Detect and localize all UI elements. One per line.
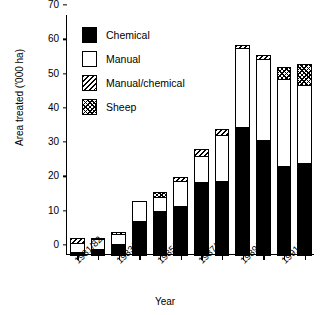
y-tick-mark xyxy=(63,107,68,108)
y-tick-40: 40 xyxy=(7,103,67,113)
bar-segment-manual xyxy=(256,59,270,141)
x-tick-mark xyxy=(263,256,264,261)
y-tick-mark xyxy=(63,142,68,143)
y-tick-60: 60 xyxy=(7,34,67,44)
bar-segment-manual xyxy=(215,135,229,182)
y-tick-10: 10 xyxy=(7,206,67,216)
bar-1985-86[interactable] xyxy=(153,192,167,255)
bar-1987-88[interactable] xyxy=(194,149,208,255)
chart-legend: ChemicalManualManual/chemicalSheep xyxy=(82,23,185,119)
bar-1990-91[interactable] xyxy=(256,55,270,255)
legend-swatch-sheep-icon xyxy=(82,99,97,115)
y-tick-mark xyxy=(63,176,68,177)
legend-label: Chemical xyxy=(106,29,150,41)
x-tick-mark xyxy=(222,256,223,261)
legend-swatch-chemical-icon xyxy=(82,27,97,43)
x-tick-mark xyxy=(98,256,99,261)
bar-segment-manual xyxy=(277,79,291,167)
legend-swatch-mc-icon xyxy=(82,75,97,91)
legend-item-manual: Manual xyxy=(82,47,185,71)
bar-1992-93[interactable] xyxy=(297,64,311,255)
bar-segment-manual xyxy=(297,85,311,164)
legend-label: Sheep xyxy=(106,101,136,113)
bar-chart-figure: Area treated ('000 ha) Year 010203040506… xyxy=(0,0,330,315)
y-tick-mark xyxy=(63,73,68,74)
x-tick-mark xyxy=(181,256,182,261)
bar-segment-manual xyxy=(194,156,208,183)
bar-segment-manual xyxy=(132,201,146,222)
y-tick-30: 30 xyxy=(7,137,67,147)
bar-segment-sheep xyxy=(297,64,311,86)
legend-label: Manual/chemical xyxy=(106,77,185,89)
y-tick-50: 50 xyxy=(7,69,67,79)
y-tick-mark xyxy=(63,244,68,245)
bar-segment-manual xyxy=(173,181,187,206)
y-tick-mark xyxy=(63,4,68,5)
bar-segment-chemical xyxy=(194,182,208,256)
y-tick-mark xyxy=(63,39,68,40)
bar-segment-manual xyxy=(153,197,167,212)
bar-segment-chemical xyxy=(235,127,249,256)
x-tick-mark xyxy=(139,256,140,261)
legend-item-sheep: Sheep xyxy=(82,95,185,119)
legend-item-chemical: Chemical xyxy=(82,23,185,47)
x-axis-label: Year xyxy=(0,296,330,307)
bar-1989-90[interactable] xyxy=(235,45,249,255)
legend-item-mc: Manual/chemical xyxy=(82,71,185,95)
bar-segment-manual xyxy=(235,48,249,129)
y-tick-70: 70 xyxy=(7,0,67,10)
bar-1991-92[interactable] xyxy=(277,67,291,255)
x-tick-mark xyxy=(305,256,306,261)
y-tick-20: 20 xyxy=(7,171,67,181)
y-tick-mark xyxy=(63,210,68,211)
bar-segment-chemical xyxy=(277,166,291,256)
legend-label: Manual xyxy=(106,53,140,65)
legend-swatch-manual-icon xyxy=(82,51,97,67)
y-tick-0: 0 xyxy=(7,240,67,250)
